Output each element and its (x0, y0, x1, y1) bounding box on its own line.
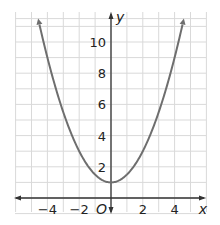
y-tick-label: 6 (98, 97, 106, 112)
x-axis-label: x (198, 201, 208, 217)
x-tick-label: 4 (170, 202, 178, 217)
origin-label: O (96, 201, 107, 217)
y-tick-label: 4 (98, 129, 106, 144)
y-tick-label: 2 (98, 160, 106, 175)
y-tick-label: 10 (89, 35, 106, 50)
y-axis-label: y (115, 9, 125, 25)
parabola-graph: −4−224246810Oxy (0, 0, 220, 225)
y-tick-label: 8 (98, 66, 106, 81)
x-tick-label: −4 (38, 202, 57, 217)
x-tick-label: 2 (139, 202, 147, 217)
x-tick-label: −2 (70, 202, 89, 217)
